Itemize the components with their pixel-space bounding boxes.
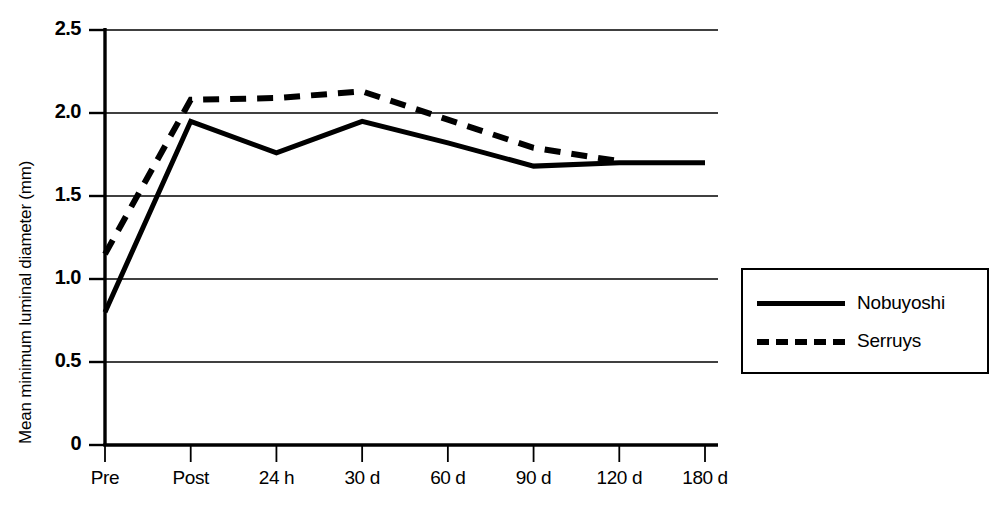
y-tick-label-1.5: 1.5 [25, 183, 81, 206]
legend-label-serruys: Serruys [857, 330, 921, 352]
x-tick-label-180-d: 180 d [655, 467, 755, 489]
y-tick-label-2.5: 2.5 [25, 17, 81, 40]
y-tick-label-0.5: 0.5 [25, 349, 81, 372]
legend-swatch-solid-line-icon [757, 296, 845, 310]
x-axis-ticks [105, 445, 705, 462]
y-tick-label-2.0: 2.0 [25, 100, 81, 123]
legend-item-serruys: Serruys [743, 326, 987, 356]
axis-lines [103, 28, 718, 445]
y-axis-ticks [89, 30, 105, 445]
gridlines [105, 30, 718, 445]
y-tick-label-1.0: 1.0 [25, 266, 81, 289]
chart-figure: Mean minimum luminal diameter (mm) 2.52.… [0, 0, 1007, 508]
legend-label-nobuyoshi: Nobuyoshi [857, 292, 945, 314]
legend-swatch-dashed-line-icon [757, 334, 845, 348]
series-line-nobuyoshi [105, 121, 705, 312]
series-line-serruys [105, 91, 619, 254]
chart-legend: Nobuyoshi Serruys [741, 268, 989, 374]
chart-plot-area [0, 0, 1007, 508]
legend-item-nobuyoshi: Nobuyoshi [743, 288, 987, 318]
y-tick-label-0: 0 [25, 432, 81, 455]
